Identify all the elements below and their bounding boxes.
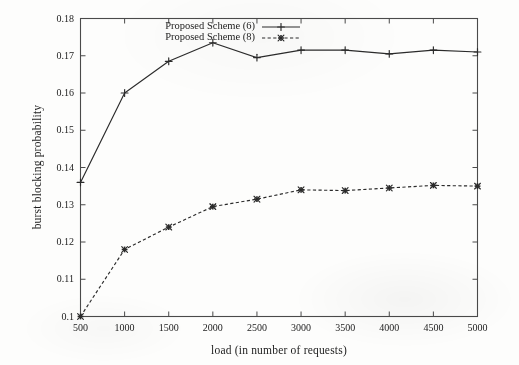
series-markers-2 xyxy=(78,182,481,319)
y-tick-label: 0.1 xyxy=(20,311,74,322)
legend-marker-1 xyxy=(278,24,285,31)
figure-page: 0.10.110.120.130.140.150.160.170.1850010… xyxy=(0,0,519,365)
axis-ticks xyxy=(81,19,478,317)
legend-line-samples xyxy=(262,24,300,41)
y-axis-title-wrapper: burst blocking probability xyxy=(27,57,45,277)
series-line-2 xyxy=(81,185,478,316)
y-axis-title: burst blocking probability xyxy=(31,105,43,230)
series-markers-1 xyxy=(77,39,481,185)
plot-frame xyxy=(81,19,478,317)
data-series-group xyxy=(77,39,481,319)
legend-label-2: Proposed Scheme (8) xyxy=(90,31,255,42)
x-tick-label: 5000 xyxy=(448,322,508,333)
x-axis-title: load (in number of requests) xyxy=(211,344,347,356)
legend-marker-2 xyxy=(278,35,284,41)
legend-label-1: Proposed Scheme (6) xyxy=(90,20,255,31)
series-line-1 xyxy=(81,43,478,183)
chart-canvas xyxy=(0,0,519,365)
y-tick-label: 0.18 xyxy=(20,13,74,24)
x-axis-title-wrapper: load (in number of requests) xyxy=(80,340,478,358)
